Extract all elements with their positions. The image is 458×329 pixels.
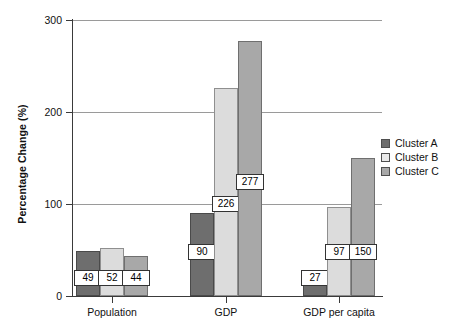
- legend-swatch-icon: [381, 167, 390, 176]
- y-tick-label-100: 100: [22, 199, 62, 210]
- y-tick-mark-100: [66, 204, 73, 205]
- gridline-300: [72, 20, 382, 21]
- legend-item-label: Cluster B: [395, 152, 438, 163]
- legend: Cluster ACluster BCluster C: [381, 137, 439, 179]
- bar: [351, 158, 375, 296]
- x-axis-line: [72, 296, 383, 297]
- legend-swatch-icon: [381, 153, 390, 162]
- y-axis-line: [72, 19, 73, 297]
- legend-swatch-icon: [381, 139, 390, 148]
- legend-item-label: Cluster C: [395, 166, 439, 177]
- y-tick-label-200: 200: [22, 107, 62, 118]
- y-tick-mark-0: [66, 296, 73, 297]
- x-tick-label: GDP per capita: [269, 306, 409, 318]
- bar-value-label: 226: [212, 196, 240, 212]
- bar-value-label: 150: [349, 244, 377, 260]
- x-tick-mark: [226, 297, 227, 303]
- y-axis-title: Percentage Change (%): [16, 64, 28, 264]
- bar-value-label: 44: [122, 270, 150, 286]
- x-tick-mark: [339, 297, 340, 303]
- bar-value-label: 277: [236, 174, 264, 190]
- legend-item[interactable]: Cluster A: [381, 137, 439, 150]
- bar-value-label: 27: [301, 270, 329, 286]
- bar: [238, 41, 262, 296]
- y-tick-mark-200: [66, 112, 73, 113]
- legend-item[interactable]: Cluster C: [381, 165, 439, 178]
- y-tick-label-300: 300: [22, 15, 62, 26]
- bar-chart-figure: Percentage Change (%) 0100200300 4952449…: [0, 0, 458, 329]
- x-tick-mark: [112, 297, 113, 303]
- bar: [214, 88, 238, 296]
- y-tick-mark-300: [66, 20, 73, 21]
- y-tick-label-0: 0: [22, 291, 62, 302]
- legend-item[interactable]: Cluster B: [381, 151, 439, 164]
- legend-item-label: Cluster A: [395, 138, 438, 149]
- bar-value-label: 90: [188, 244, 216, 260]
